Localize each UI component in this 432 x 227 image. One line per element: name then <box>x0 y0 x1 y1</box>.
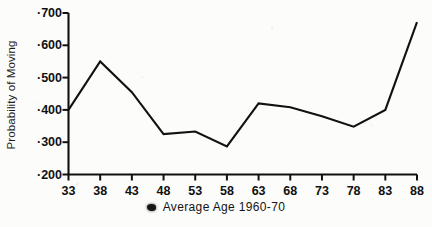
x-tick-label: 88 <box>410 184 424 198</box>
x-tick-label: 58 <box>220 184 234 198</box>
x-tick-label: 78 <box>347 184 361 198</box>
y-tick-label: ·500 <box>18 71 62 85</box>
y-tick-label: ·700 <box>18 6 62 20</box>
x-tick-label: 48 <box>157 184 171 198</box>
x-tick-label: 33 <box>62 184 76 198</box>
y-tick-label: ·200 <box>18 168 62 182</box>
chart-caption-label: Average Age 1960-70 <box>163 200 286 214</box>
x-tick-label: 73 <box>315 184 329 198</box>
y-tick-label: ·600 <box>18 38 62 52</box>
dot-smudge-marker-icon <box>147 204 156 211</box>
x-tick-label: 83 <box>378 184 392 198</box>
x-tick-label: 38 <box>93 184 107 198</box>
chart-caption: Average Age 1960-70 <box>0 200 432 214</box>
x-tick-label: 53 <box>188 184 202 198</box>
y-tick-label: ·300 <box>18 135 62 149</box>
x-tick-label: 68 <box>283 184 297 198</box>
y-tick-label: ·400 <box>18 103 62 117</box>
data-series-line <box>69 22 418 146</box>
x-tick-label: 43 <box>125 184 139 198</box>
chart-figure: Probability of Moving ·700·600·500·400·3… <box>0 0 432 227</box>
x-tick-label: 63 <box>252 184 266 198</box>
